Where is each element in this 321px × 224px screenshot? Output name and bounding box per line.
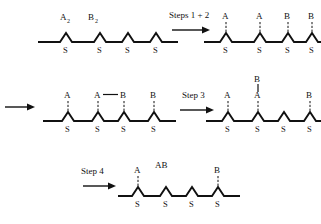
arrow-steps-1-2: Steps 1 + 2: [169, 10, 210, 34]
s-label-2: S: [97, 45, 102, 55]
released-product-ab: AB: [155, 160, 168, 170]
arrow-continuation: [5, 104, 35, 111]
s-label-1: S: [223, 45, 228, 55]
attached-group-3: B: [120, 90, 126, 100]
arrow-step-4: Step 4: [81, 166, 116, 190]
substrate-backbone: [206, 112, 321, 121]
attached-group-1: A: [222, 11, 229, 21]
arrow-step-3-label: Step 3: [182, 90, 205, 100]
s-label-4: S: [153, 45, 158, 55]
attached-group-1: A: [134, 165, 141, 175]
substrate-backbone: [43, 112, 176, 121]
s-label-3: S: [189, 199, 194, 209]
s-label-1: S: [63, 45, 68, 55]
s-label-3: S: [281, 124, 286, 134]
s-label-1: S: [65, 124, 70, 134]
s-label-4: S: [307, 124, 312, 134]
s-label-4: S: [151, 124, 156, 134]
s-label-3: S: [285, 45, 290, 55]
s-label-1: S: [225, 124, 230, 134]
arrow-step-3-head: [206, 107, 214, 114]
attached-group-4: B: [214, 165, 220, 175]
substrate-after-steps-1-2: S S S S A A B B: [204, 11, 321, 55]
reagent-b2-label: B 2: [88, 12, 98, 24]
reagent-b2-text: B: [88, 12, 94, 22]
arrow-continuation-head: [27, 104, 35, 111]
arrow-steps-1-2-label: Steps 1 + 2: [169, 10, 209, 20]
reagent-a2-text: A: [60, 12, 67, 22]
s-label-4: S: [215, 199, 220, 209]
attached-group-4: B: [308, 11, 314, 21]
stacked-group-2: B: [254, 74, 260, 84]
arrow-steps-1-2-head: [202, 27, 210, 34]
s-label-2: S: [255, 124, 260, 134]
attached-group-2: A: [256, 11, 263, 21]
row-3: Step 4 AB S S S S A B: [81, 160, 240, 209]
s-label-1: S: [135, 199, 140, 209]
attached-group-2: A: [94, 90, 101, 100]
substrate-after-step-4: S S S S A B: [118, 165, 240, 209]
reagent-a2-subscript: 2: [67, 18, 70, 24]
substrate-with-ab-bond: S S S S A A B B: [43, 90, 176, 134]
s-label-3: S: [125, 45, 130, 55]
s-label-2: S: [95, 124, 100, 134]
substrate-backbone: [204, 33, 321, 42]
arrow-step-4-label: Step 4: [81, 166, 104, 176]
attached-group-1: A: [64, 90, 71, 100]
substrate-after-step-3: S S S S A A B B: [206, 74, 321, 134]
attached-group-4: B: [150, 90, 156, 100]
row-1: A 2 B 2 S S S S Steps 1 + 2 S S S S: [38, 10, 321, 55]
reagent-a2-label: A 2: [60, 12, 70, 24]
arrow-step-3: Step 3: [180, 90, 214, 114]
attached-group-4: B: [306, 90, 312, 100]
substrate-backbone: [38, 33, 178, 42]
attached-group-1: A: [224, 90, 231, 100]
reagent-b2-subscript: 2: [95, 18, 98, 24]
s-label-2: S: [163, 199, 168, 209]
reaction-scheme-figure: A 2 B 2 S S S S Steps 1 + 2 S S S S: [0, 0, 321, 224]
s-label-3: S: [121, 124, 126, 134]
s-label-4: S: [309, 45, 314, 55]
row-2: S S S S A A B B Step 3 S S S: [5, 74, 321, 134]
substrate-backbone: [118, 187, 240, 196]
substrate-initial: S S S S: [38, 33, 178, 55]
s-label-2: S: [257, 45, 262, 55]
arrow-step-4-head: [108, 183, 116, 190]
scheme-canvas: A 2 B 2 S S S S Steps 1 + 2 S S S S: [0, 0, 321, 224]
attached-group-3: B: [284, 11, 290, 21]
